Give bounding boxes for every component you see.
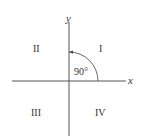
quadrant-label-I: I [99, 43, 102, 54]
quadrant-diagram: y x II I III IV 90° [0, 0, 143, 140]
x-axis-label: x [127, 74, 133, 86]
y-axis-label: y [65, 12, 71, 24]
quadrant-label-IV: IV [95, 107, 106, 118]
arrowhead-icon [69, 50, 73, 53]
quadrant-label-II: II [33, 43, 40, 54]
quadrant-label-III: III [31, 107, 41, 118]
angle-label: 90° [74, 66, 88, 77]
